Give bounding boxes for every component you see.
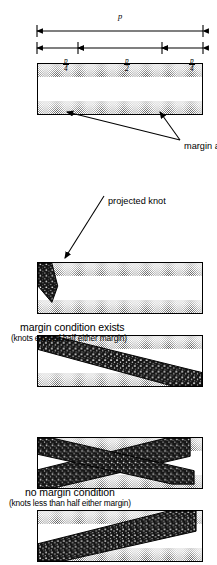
figure-canvas: p p 4 p 2 p 4 margin areas projected kno… bbox=[0, 0, 217, 565]
fraction-denominator: 4 bbox=[63, 64, 69, 72]
fraction-numerator: p bbox=[189, 57, 195, 64]
caption-margin-exists-line2: (knots exceed half either margin) bbox=[11, 334, 127, 343]
annotation-projected-knot: projected knot bbox=[108, 196, 166, 206]
fraction-numerator: p bbox=[63, 57, 69, 64]
dimension-label-quarter-left: p 4 bbox=[189, 55, 195, 73]
caption-margin-exists-line1: margin condition exists bbox=[20, 322, 125, 334]
annotation-margin-areas: margin areas bbox=[184, 141, 217, 151]
fraction-numerator: p bbox=[124, 57, 130, 64]
caption-no-margin-line1: no margin condition bbox=[25, 487, 115, 499]
dimension-label-total: p bbox=[118, 12, 122, 22]
fraction-denominator: 2 bbox=[124, 64, 130, 72]
caption-no-margin-line2: (knots less than half either margin) bbox=[9, 499, 131, 508]
fraction-denominator: 4 bbox=[189, 64, 195, 72]
dimension-label-quarter-right: p 4 bbox=[63, 55, 69, 73]
dimension-label-half: p 2 bbox=[124, 55, 130, 73]
annotation-text: p p 4 p 2 p 4 margin areas projected kno… bbox=[0, 0, 217, 565]
